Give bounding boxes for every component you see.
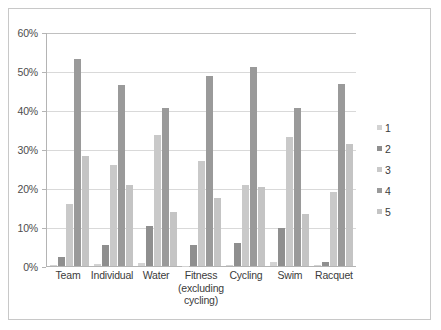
x-tick-label: Fitness(excludingcycling) [178, 269, 224, 307]
chart-legend: 12345 [377, 117, 423, 222]
x-tick-label: Racquet [312, 269, 356, 307]
plot-wrapper: 0%10%20%30%40%50%60% [46, 33, 356, 267]
bar [154, 135, 161, 266]
x-tick-label: Swim [268, 269, 312, 307]
y-tick-label: 50% [18, 66, 38, 78]
bar [278, 228, 285, 266]
x-axis-labels: TeamIndividualWaterFitness(excludingcycl… [46, 269, 356, 307]
bar-group [91, 33, 135, 266]
legend-label: 1 [385, 122, 391, 134]
bar [270, 262, 277, 266]
bar-groups [47, 33, 356, 266]
legend-label: 2 [385, 143, 391, 155]
legend-swatch-icon [377, 146, 382, 151]
bar [50, 265, 57, 266]
legend-item[interactable]: 1 [377, 117, 423, 138]
bar-group [135, 33, 179, 266]
bar [242, 185, 249, 267]
legend-item[interactable]: 3 [377, 159, 423, 180]
bar [250, 67, 257, 266]
bar [322, 262, 329, 266]
bar [346, 144, 353, 266]
bar-group [224, 33, 268, 266]
x-tick-label: Water [134, 269, 178, 307]
bar [138, 263, 145, 266]
legend-swatch-icon [377, 125, 382, 130]
y-tick-label: 40% [18, 105, 38, 117]
bar [94, 264, 101, 266]
bar [214, 198, 221, 266]
bar [314, 265, 321, 266]
legend-label: 4 [385, 185, 391, 197]
y-tick-label: 30% [18, 144, 38, 156]
chart-frame: 0%10%20%30%40%50%60% TeamIndividualWater… [8, 8, 431, 320]
bar [226, 265, 233, 266]
bar [82, 156, 89, 266]
legend-label: 3 [385, 164, 391, 176]
bar-group [312, 33, 356, 266]
bar [58, 257, 65, 266]
bar [206, 76, 213, 266]
bar [102, 245, 109, 266]
legend-swatch-icon [377, 167, 382, 172]
legend-item[interactable]: 2 [377, 138, 423, 159]
bar [66, 204, 73, 266]
bar [234, 243, 241, 266]
bar-group [268, 33, 312, 266]
bar [258, 187, 265, 266]
legend-swatch-icon [377, 209, 382, 214]
x-tick-label: Individual [90, 269, 134, 307]
bar [162, 108, 169, 266]
y-tick-label: 60% [18, 27, 38, 39]
bar [286, 137, 293, 266]
y-tick-label: 20% [18, 183, 38, 195]
bar-group [179, 33, 223, 266]
bar [110, 165, 117, 266]
y-tick-label: 10% [18, 222, 38, 234]
bar [330, 192, 337, 266]
x-tick-label: Team [46, 269, 90, 307]
bar [170, 212, 177, 266]
bar [302, 214, 309, 266]
bar [338, 84, 345, 266]
y-tick-label: 0% [23, 261, 38, 273]
legend-label: 5 [385, 206, 391, 218]
x-tick-label: Cycling [224, 269, 268, 307]
bar [198, 161, 205, 266]
legend-item[interactable]: 4 [377, 180, 423, 201]
bar [146, 226, 153, 266]
bar [294, 108, 301, 266]
legend-item[interactable]: 5 [377, 201, 423, 222]
bar [118, 85, 125, 266]
y-axis: 0%10%20%30%40%50%60% [6, 33, 42, 267]
y-tick-mark [42, 267, 46, 268]
bar [126, 185, 133, 266]
legend-swatch-icon [377, 188, 382, 193]
bar [74, 59, 81, 266]
bar-group [47, 33, 91, 266]
bar [190, 245, 197, 266]
plot-area [46, 33, 356, 267]
